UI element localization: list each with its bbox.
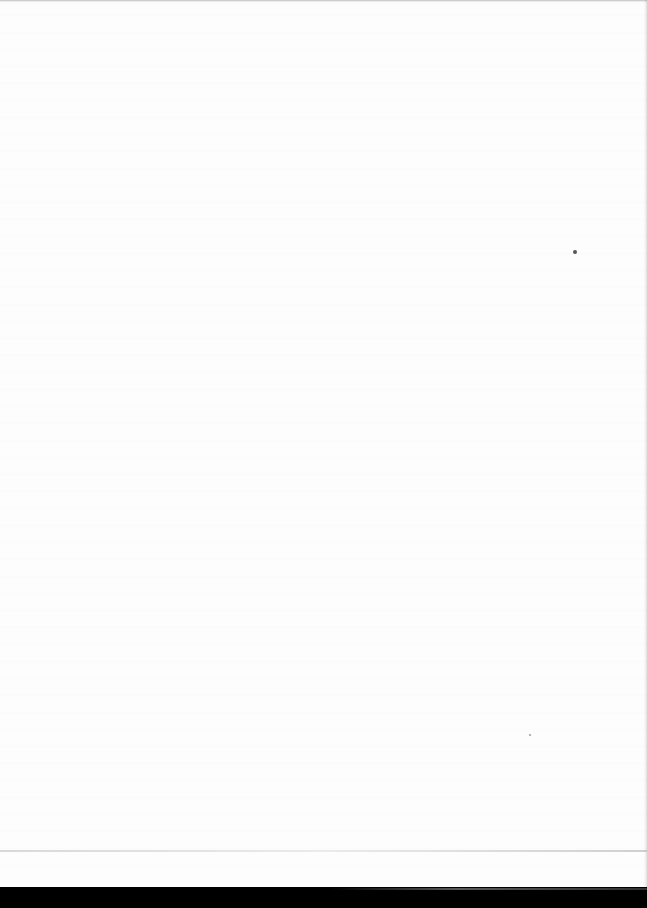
scanner-background	[0, 887, 647, 908]
ink-speck	[573, 250, 577, 254]
ink-speck-small	[529, 734, 531, 736]
blank-page	[0, 0, 647, 887]
page-fold-line	[0, 850, 647, 852]
page-edge-shadow	[330, 888, 647, 890]
bleed-through-texture	[6, 6, 641, 837]
